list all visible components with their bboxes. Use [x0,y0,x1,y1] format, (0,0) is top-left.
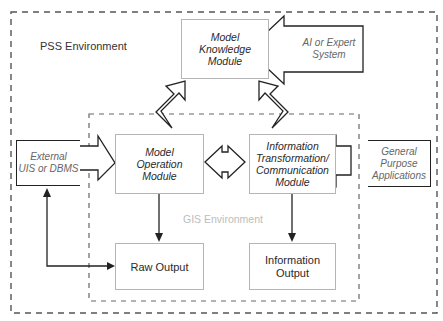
information-transformation-module: Information Transformation/ Communicatio… [249,134,336,194]
knowledge-line1: Model [199,31,251,43]
model-knowledge-module: Model Knowledge Module [181,19,269,79]
operation-line1: Model [136,146,182,158]
arrow-operation-to-knowledge [156,81,185,128]
general-line2: Purpose [372,158,426,170]
transformation-line1: Information [256,140,329,152]
transformation-line4: Module [256,176,329,188]
ai-line1: AI or Expert [303,37,356,49]
gis-environment-label: GIS Environment [183,213,263,225]
uis-line2: UIS or DBMS [18,163,78,175]
info-output-line1: Information [265,254,320,267]
transformation-line3: Communication [256,164,329,176]
transformation-line2: Transformation/ [256,152,329,164]
general-line3: Applications [372,170,426,182]
knowledge-line2: Knowledge [199,43,251,55]
knowledge-line3: Module [199,55,251,67]
pss-environment-label: PSS Environment [40,40,127,52]
arrow-transformation-to-knowledge [259,81,288,128]
information-output: Information Output [249,243,336,290]
connector-uis-to-raw [47,196,108,266]
arrow-operation-transformation-bidirectional [205,146,245,178]
arrowhead-raw-output [155,233,163,242]
arrowhead-uis [43,188,51,197]
arrowhead-raw-from-uis [107,262,115,270]
raw-output: Raw Output [115,243,204,290]
raw-output-label: Raw Output [130,261,188,273]
general-line1: General [372,146,426,158]
operation-line2: Operation [136,158,182,170]
uis-line1: External [18,151,78,163]
info-output-line2: Output [265,267,320,280]
ai-expert-system: AI or Expert System [298,28,360,70]
arrow-uis-to-operation [78,136,115,180]
ai-line2: System [303,49,356,61]
model-operation-module: Model Operation Module [115,134,204,194]
arrowhead-info-output [288,233,296,242]
operation-line3: Module [136,170,182,182]
general-purpose-applications: General Purpose Applications [368,140,431,187]
external-uis-dbms: External UIS or DBMS [16,140,80,186]
